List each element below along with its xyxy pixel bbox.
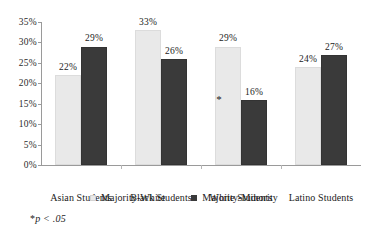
y-axis-tick-label: 30% — [19, 37, 37, 47]
x-axis-group-separator — [201, 165, 202, 169]
bar-majority-white-asian-students — [55, 75, 81, 165]
y-tickmark — [38, 83, 41, 84]
legend-item-majority-minority: Majority-Minority — [191, 192, 278, 203]
bar-value-label: 29% — [219, 33, 237, 43]
significance-footnote: *p < .05 — [30, 213, 66, 224]
bar-value-label: 24% — [299, 54, 317, 64]
x-axis-group-separator — [281, 165, 282, 169]
y-axis-tick-label: 25% — [19, 58, 37, 68]
plot-area: 35% 30% 25% 20% 15% 10% 5% 0% 22% 29% 33… — [41, 22, 361, 165]
bar-value-label: 29% — [85, 33, 103, 43]
bar-majority-minority-asian-students — [81, 47, 107, 166]
y-axis-tick-label: 0% — [24, 160, 37, 170]
bar-value-label: 26% — [165, 46, 183, 56]
y-tickmark — [38, 145, 41, 146]
y-axis-tick-label: 20% — [19, 78, 37, 88]
legend-label: Majority-Minority — [202, 192, 278, 203]
y-tickmark — [38, 63, 41, 64]
y-axis-tick-label: 10% — [19, 119, 37, 129]
legend-swatch-icon — [191, 195, 197, 201]
bar-majority-minority-white-students — [241, 100, 267, 165]
y-tickmark — [38, 165, 41, 166]
y-axis-line — [41, 22, 42, 165]
bar-value-label: 33% — [139, 17, 157, 27]
legend-item-majority-white: Majority-White — [90, 192, 165, 203]
bar-value-label: 27% — [325, 42, 343, 52]
legend-swatch-icon — [90, 195, 96, 201]
significance-asterisk: * — [216, 94, 222, 105]
grouped-bar-chart: 35% 30% 25% 20% 15% 10% 5% 0% 22% 29% 33… — [0, 0, 368, 239]
footnote-text: p < .05 — [35, 213, 66, 224]
bar-value-label: 22% — [59, 62, 77, 72]
y-tickmark — [38, 22, 41, 23]
bar-majority-minority-black-students — [161, 59, 187, 165]
y-tickmark — [38, 42, 41, 43]
x-axis-group-separator — [121, 165, 122, 169]
bar-value-label: 16% — [245, 87, 263, 97]
bar-majority-minority-latino-students — [321, 55, 347, 165]
bar-majority-white-white-students — [215, 47, 241, 166]
y-axis-tick-label: 15% — [19, 99, 37, 109]
bar-majority-white-latino-students — [295, 67, 321, 165]
y-axis-tick-label: 5% — [24, 140, 37, 150]
y-axis-tick-label: 35% — [19, 17, 37, 27]
legend-label: Majority-White — [101, 192, 165, 203]
y-tickmark — [38, 104, 41, 105]
chart-legend: Majority-White Majority-Minority — [0, 192, 368, 203]
bar-majority-white-black-students — [135, 30, 161, 165]
y-tickmark — [38, 124, 41, 125]
